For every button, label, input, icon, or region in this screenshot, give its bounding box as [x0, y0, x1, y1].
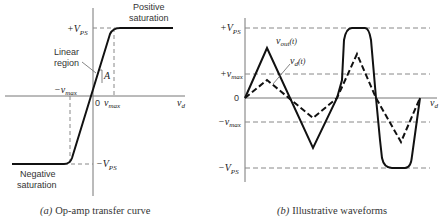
label-zero: 0	[95, 98, 100, 108]
label-pos-vps: +VPS	[67, 23, 88, 37]
label-pos-vps: +VPS	[220, 22, 241, 36]
label-neg-vps: −VPS	[218, 162, 239, 176]
panel-b-waveforms: +VPS +vmax 0 −vmax −VPS vout(t) vd(t) vd…	[218, 18, 438, 217]
caption-a: (a)Op-amp transfer curve	[40, 205, 151, 217]
linear-region-pointer	[82, 62, 96, 73]
label-vmax: vmax	[104, 97, 121, 110]
label-pos-vmax: +vmax	[220, 68, 244, 81]
label-zero: 0	[234, 93, 239, 103]
label-pos-saturation: saturation	[129, 13, 169, 23]
label-negative: Negative	[20, 169, 56, 179]
label-positive: Positive	[133, 2, 165, 12]
label-linear: Linear	[54, 47, 79, 57]
label-vout: vout(t)	[276, 35, 297, 48]
panel-a-transfer-curve: +VPS −VPS −vmax 0 vmax vd A Linear regio…	[5, 2, 185, 217]
label-region: region	[54, 58, 79, 68]
opamp-figure: +VPS −VPS −vmax 0 vmax vd A Linear regio…	[0, 0, 440, 224]
label-gain: A	[103, 70, 111, 81]
label-vd-axis: vd	[177, 97, 185, 110]
label-neg-vmax: −vmax	[54, 84, 78, 97]
label-neg-saturation: saturation	[17, 180, 57, 190]
label-axis-vd: vd	[430, 97, 438, 110]
label-vd: vd(t)	[290, 55, 306, 68]
label-neg-vmax: −vmax	[218, 116, 242, 129]
label-neg-vps: −VPS	[96, 158, 117, 172]
caption-b: (b)Illustrative waveforms	[277, 205, 387, 217]
